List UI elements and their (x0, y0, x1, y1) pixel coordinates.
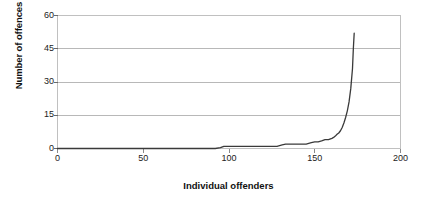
chart-container: Number of offences 015304560 05010015020… (0, 0, 422, 201)
x-tick-label: 50 (123, 154, 163, 163)
x-axis-title: Individual offenders (57, 180, 400, 191)
x-axis-tick-labels: 050100150200 (0, 154, 422, 174)
x-tick-label: 0 (38, 154, 78, 163)
x-tick-label: 100 (209, 154, 249, 163)
x-tick-label: 200 (381, 154, 421, 163)
x-tick-label: 150 (295, 154, 335, 163)
